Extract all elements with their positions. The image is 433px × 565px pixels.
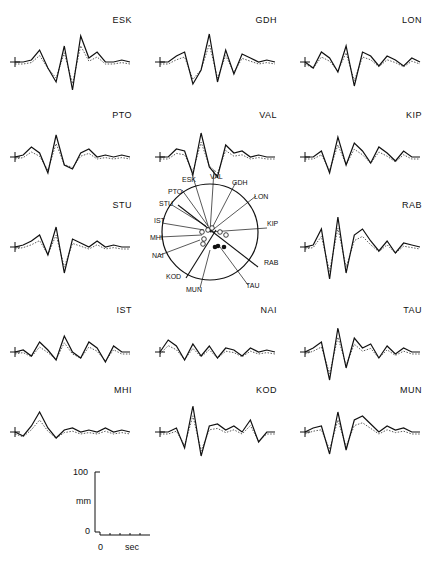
- y-unit-label: mm: [76, 496, 91, 506]
- seismogram-pto: PTO: [5, 110, 140, 190]
- seismogram-kip: KIP: [295, 110, 430, 190]
- seismogram-kod: KOD: [150, 385, 285, 465]
- station-label: ESK: [112, 15, 132, 25]
- station-label: MHI: [114, 385, 132, 395]
- label-kod: KOD: [166, 273, 181, 280]
- label-kip: KIP: [267, 220, 278, 227]
- scale-bar: 100 mm 0 0 sec: [40, 450, 150, 565]
- seismogram-lon: LON: [295, 15, 430, 95]
- station-label: KOD: [256, 385, 277, 395]
- seismogram-mun: MUN: [295, 385, 430, 465]
- station-label: LON: [402, 15, 422, 25]
- label-tau: TAU: [246, 282, 259, 289]
- station-label: MUN: [400, 385, 422, 395]
- y-min-label: 0: [85, 526, 90, 536]
- seismogram-gdh: GDH: [150, 15, 285, 95]
- label-stu: STU: [159, 200, 173, 207]
- station-label: PTO: [112, 110, 132, 120]
- label-val: VAL: [210, 173, 223, 180]
- station-label: RAB: [402, 200, 422, 210]
- label-gdh: GDH: [232, 179, 248, 186]
- label-pto: PTO: [168, 188, 182, 195]
- label-esk: ESK: [182, 176, 196, 183]
- focal-sphere-plot: ESK VAL GDH LON KIP RAB TAU MUN KOD NAI …: [130, 160, 290, 320]
- label-mhi: MHI: [150, 234, 163, 241]
- label-lon: LON: [254, 193, 268, 200]
- x-min-label: 0: [98, 542, 103, 552]
- y-max-label: 100: [73, 467, 88, 477]
- station-label: TAU: [403, 305, 422, 315]
- label-rab: RAB: [264, 259, 278, 266]
- seismogram-ist: IST: [5, 305, 140, 385]
- label-nai: NAI: [152, 252, 164, 259]
- seismogram-esk: ESK: [5, 15, 140, 95]
- station-label: GDH: [256, 15, 278, 25]
- label-mun: MUN: [186, 286, 202, 293]
- station-label: KIP: [406, 110, 422, 120]
- seismogram-tau: TAU: [295, 305, 430, 385]
- label-ist: IST: [154, 217, 165, 224]
- seismogram-rab: RAB: [295, 200, 430, 280]
- seismogram-stu: STU: [5, 200, 140, 280]
- x-unit-label: sec: [125, 542, 139, 552]
- station-label: VAL: [259, 110, 277, 120]
